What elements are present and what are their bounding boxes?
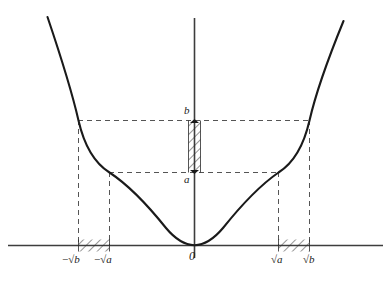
shaded-region-x-axis-negative xyxy=(79,240,110,252)
label-x-neg-sqrt-a: −√a xyxy=(94,254,112,265)
label-operand: b xyxy=(309,253,315,265)
label-origin: 0 xyxy=(189,250,195,262)
shaded-region-y-axis-a-to-b xyxy=(189,121,201,173)
shaded-region-x-axis-positive xyxy=(279,240,310,252)
label-y-axis-a: a xyxy=(184,174,190,185)
label-operand: b xyxy=(74,253,80,265)
label-x-pos-sqrt-b: √b xyxy=(303,254,315,265)
label-x-neg-sqrt-b: −√b xyxy=(62,254,80,265)
label-y-axis-b: b xyxy=(184,105,190,116)
label-x-pos-sqrt-a: √a xyxy=(271,254,283,265)
label-operand: a xyxy=(277,253,283,265)
figure-canvas xyxy=(0,0,389,282)
label-operand: a xyxy=(106,253,112,265)
parabola-figure: b a 0 −√b −√a √a √b xyxy=(0,0,389,282)
